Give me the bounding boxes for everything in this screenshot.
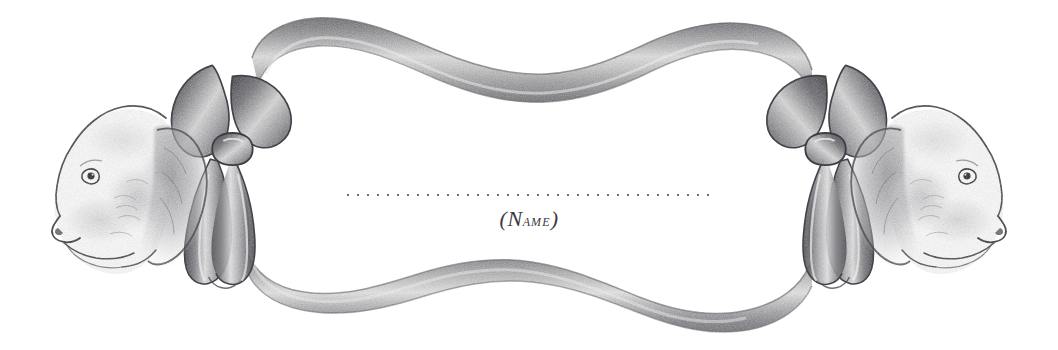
caption-close-paren: ) (551, 206, 559, 231)
caption-initial: N (507, 206, 522, 231)
cartouche-artwork (0, 0, 1058, 350)
caption-rest: ame (523, 211, 551, 230)
right-dog-head (850, 106, 1006, 274)
name-dotted-rule (343, 190, 713, 196)
name-caption: (Name) (0, 206, 1058, 234)
bottom-ribbon-band (246, 250, 812, 332)
nameplate-illustration: (Name) (0, 0, 1058, 350)
left-dog-head (52, 106, 208, 274)
top-ribbon-band (252, 18, 812, 102)
